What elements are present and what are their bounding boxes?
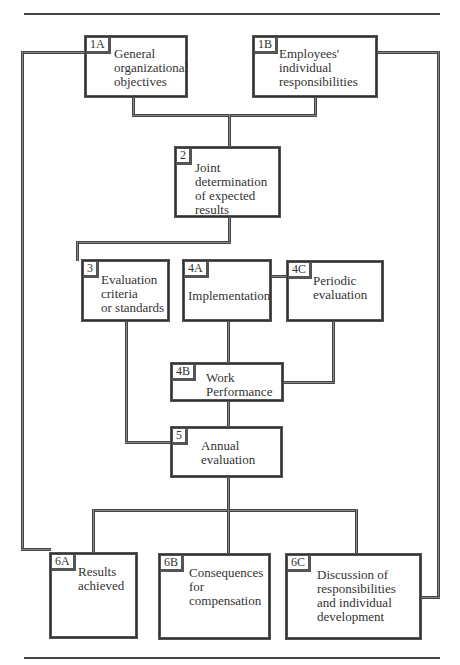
node-1A: 1A General organizational objectives (84, 35, 188, 98)
node-tag: 1B (255, 38, 278, 54)
node-label: Consequences for compensation (189, 566, 263, 608)
node-tag: 3 (84, 262, 99, 278)
node-tag: 6B (161, 556, 184, 572)
node-label: Discussion of responsibilities and indiv… (317, 568, 396, 624)
node-label: Work Performance (206, 371, 272, 399)
node-6A: 6A Results achieved (49, 552, 138, 639)
node-tag: 6C (288, 556, 311, 572)
node-6C: 6C Discussion of responsibilities and in… (285, 553, 422, 640)
node-tag: 1A (87, 38, 111, 54)
node-4B: 4B Work Performance (170, 362, 284, 402)
node-label: Evaluation criteria or standards (101, 273, 164, 315)
node-label: General organizational objectives (114, 47, 188, 89)
node-label: Results achieved (78, 565, 124, 593)
node-4C: 4C Periodic evaluation (286, 260, 384, 322)
node-tag: 6A (52, 555, 76, 571)
node-3: 3 Evaluation criteria or standards (81, 259, 170, 322)
node-4A: 4A Implementation (182, 259, 272, 322)
node-tag: 4C (289, 263, 312, 279)
node-tag: 4B (173, 365, 196, 381)
node-1B: 1B Employees' individual responsibilitie… (252, 35, 378, 98)
node-label: Periodic evaluation (313, 274, 367, 302)
node-label: Employees' individual responsibilities (279, 47, 358, 89)
node-label: Implementation (188, 289, 270, 303)
node-tag: 2 (177, 149, 192, 165)
node-tag: 5 (173, 429, 188, 445)
node-label: Annual evaluation (201, 439, 255, 467)
node-label: Joint determination of expected results (195, 161, 267, 217)
node-6B: 6B Consequences for compensation (158, 553, 271, 640)
bottom-rule (24, 657, 440, 659)
node-tag: 4A (185, 262, 209, 278)
node-5: 5 Annual evaluation (170, 426, 283, 478)
node-2: 2 Joint determination of expected result… (174, 146, 281, 218)
top-rule (24, 13, 440, 15)
